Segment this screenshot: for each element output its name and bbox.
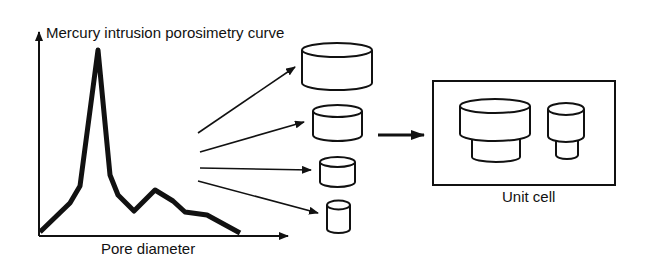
chart-axes [39, 32, 288, 236]
curve-title: Mercury intrusion porosimetry curve [46, 24, 284, 41]
distribution-arrows [198, 67, 318, 213]
porosimetry-curve [40, 50, 240, 233]
cylinder-large-icon [313, 105, 362, 141]
cylinder-medium-icon [320, 157, 355, 187]
unit-cell-label: Unit cell [502, 188, 555, 205]
cylinder-small-icon [327, 201, 350, 234]
cylinder-largest-icon [302, 43, 372, 90]
x-axis-label: Pore diameter [101, 240, 195, 257]
